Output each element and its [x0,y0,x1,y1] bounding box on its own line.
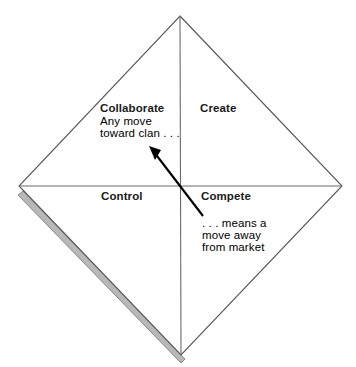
annotation-away-from-market-line-2: move away [202,229,267,241]
annotation-toward-clan: Any move toward clan . . . [100,115,180,139]
competing-values-diamond-graphic [0,0,356,367]
quadrant-label-create: Create [200,101,236,115]
annotation-away-from-market-line-3: from market [202,241,267,253]
quadrant-label-collaborate: Collaborate [100,101,164,115]
annotation-toward-clan-line-1: Any move [100,115,180,127]
annotation-toward-clan-line-2: toward clan . . . [100,127,180,139]
quadrant-label-control: Control [101,189,143,203]
annotation-away-from-market-line-1: . . . means a [202,217,267,229]
annotation-away-from-market: . . . means a move away from market [202,217,267,253]
diagram-canvas: Collaborate Create Control Compete Any m… [0,0,356,367]
quadrant-label-compete: Compete [201,189,251,203]
